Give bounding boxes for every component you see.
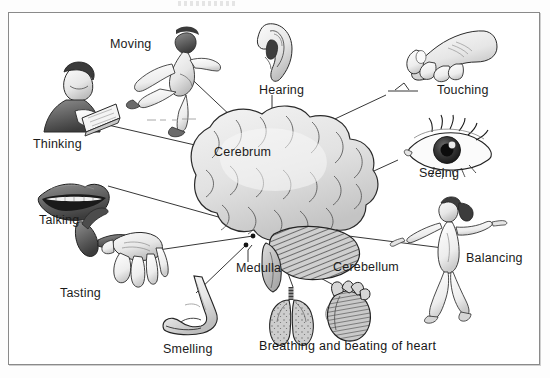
person-reading-book-illustration	[44, 62, 120, 136]
tongue-and-hand-illustration	[75, 208, 168, 287]
lungs-illustration	[270, 287, 314, 345]
caption-breathing-heart: Breathing and beating of heart	[259, 339, 436, 353]
hand-pinching-illustration	[407, 31, 497, 82]
label-balancing: Balancing	[466, 252, 523, 265]
leader-medulla	[248, 245, 252, 262]
label-smelling: Smelling	[163, 343, 213, 356]
label-moving: Moving	[110, 38, 152, 51]
nose-illustration	[163, 276, 217, 335]
brain-functions-figure: Moving Hearing Touching Thinking Seeing …	[0, 0, 550, 378]
fingernail	[416, 51, 426, 64]
diagram-artwork	[0, 0, 550, 378]
ear-illustration	[257, 24, 292, 82]
leader-touching-tick	[388, 83, 418, 91]
label-talking: Talking	[39, 214, 79, 227]
label-hearing: Hearing	[259, 84, 304, 97]
heart-illustration	[326, 281, 371, 341]
dot-tasting	[251, 234, 256, 239]
label-thinking: Thinking	[33, 138, 82, 151]
label-cerebellum: Cerebellum	[333, 261, 399, 274]
label-seeing: Seeing	[419, 167, 459, 180]
eye-highlight	[449, 142, 456, 149]
label-touching: Touching	[437, 84, 489, 97]
dot-smelling	[244, 243, 249, 248]
label-cerebrum: Cerebrum	[214, 146, 271, 159]
label-tasting: Tasting	[60, 287, 101, 300]
label-medulla: Medulla	[236, 262, 281, 275]
